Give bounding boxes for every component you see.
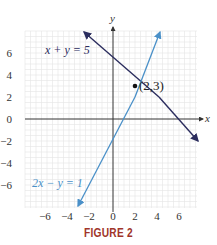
svg-text:4: 4 [7,69,13,81]
svg-text:0: 0 [7,113,13,125]
y-tick-labels: 6 4 2 0 −2 −4 −6 [0,47,12,191]
chart: x y 6 4 2 0 −2 −4 −6 −6 −4 −2 0 2 4 6 (2… [0,0,217,225]
intersection-label: (2,3) [139,78,164,93]
svg-text:2: 2 [7,91,13,103]
equation-label-1: x + y = 5 [44,43,90,57]
intersection-point [133,84,138,89]
svg-text:−2: −2 [0,135,12,147]
figure-caption: FIGURE 2 [16,226,200,240]
svg-text:0: 0 [110,210,116,222]
svg-text:6: 6 [7,47,13,59]
svg-text:4: 4 [154,210,160,222]
svg-text:−6: −6 [39,210,51,222]
y-axis-label: y [109,12,115,24]
svg-text:2: 2 [132,210,138,222]
equation-label-2: 2x − y = 1 [32,176,83,190]
svg-text:−4: −4 [61,210,73,222]
svg-text:−6: −6 [0,179,12,191]
x-axis-label: x [204,112,210,124]
x-tick-labels: −6 −4 −2 0 2 4 6 [39,210,182,222]
svg-text:−4: −4 [0,157,12,169]
svg-text:−2: −2 [83,210,95,222]
svg-text:6: 6 [176,210,182,222]
